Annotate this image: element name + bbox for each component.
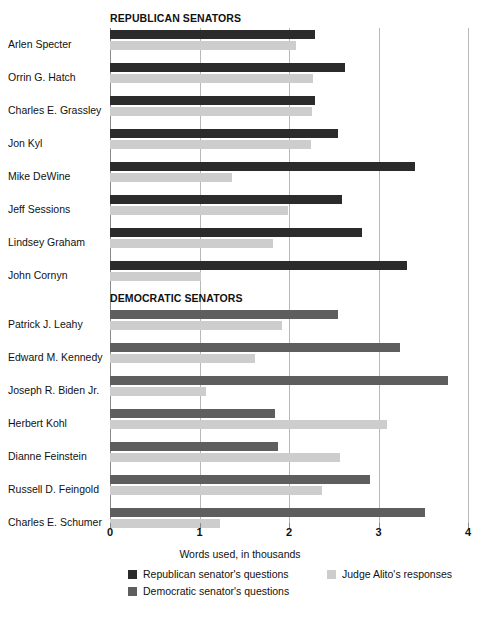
bar-responses — [110, 107, 312, 116]
chart-row: Charles E. Grassley — [0, 94, 480, 127]
row-label: Mike DeWine — [8, 170, 107, 182]
row-bars — [110, 440, 468, 473]
row-bars — [110, 226, 468, 259]
legend-label-republican: Republican senator's questions — [143, 568, 289, 580]
bar-responses — [110, 272, 201, 281]
bar-questions — [110, 442, 278, 451]
row-label: Edward M. Kennedy — [8, 351, 107, 363]
legend: Republican senator's questions Democrati… — [0, 568, 480, 608]
bar-responses — [110, 206, 288, 215]
section-title-democratic: DEMOCRATIC SENATORS — [110, 292, 243, 304]
row-label: Jeff Sessions — [8, 203, 107, 215]
row-bars — [110, 407, 468, 440]
legend-item-republican: Republican senator's questions — [128, 568, 289, 580]
bar-questions — [110, 63, 345, 72]
legend-swatch-icon — [128, 587, 137, 596]
bar-responses — [110, 41, 296, 50]
chart-row: Jeff Sessions — [0, 193, 480, 226]
row-bars — [110, 94, 468, 127]
axis-tick-label: 2 — [286, 526, 292, 538]
bar-questions — [110, 261, 407, 270]
legend-swatch-icon — [128, 570, 137, 579]
row-bars — [110, 374, 468, 407]
bar-questions — [110, 129, 338, 138]
row-bars — [110, 160, 468, 193]
chart-row: Russell D. Feingold — [0, 473, 480, 506]
legend-item-alito: Judge Alito's responses — [327, 568, 452, 580]
chart-row: Patrick J. Leahy — [0, 308, 480, 341]
row-bars — [110, 341, 468, 374]
row-bars — [110, 127, 468, 160]
bar-questions — [110, 310, 338, 319]
row-label: Charles E. Schumer — [8, 516, 107, 528]
bar-questions — [110, 376, 448, 385]
chart-row: Arlen Specter — [0, 28, 480, 61]
legend-label-democratic: Democratic senator's questions — [143, 585, 289, 597]
chart-row: Mike DeWine — [0, 160, 480, 193]
bar-questions — [110, 228, 362, 237]
bar-questions — [110, 195, 342, 204]
x-axis-label: Words used, in thousands — [0, 548, 480, 560]
bar-responses — [110, 387, 206, 396]
row-bars — [110, 61, 468, 94]
row-label: Russell D. Feingold — [8, 483, 107, 495]
x-axis: 01234 — [110, 523, 468, 539]
row-label: Jon Kyl — [8, 137, 107, 149]
bar-responses — [110, 486, 322, 495]
row-label: Orrin G. Hatch — [8, 71, 107, 83]
section-title-republican: REPUBLICAN SENATORS — [110, 12, 241, 24]
row-bars — [110, 308, 468, 341]
row-label: Charles E. Grassley — [8, 104, 107, 116]
row-bars — [110, 259, 468, 292]
row-label: Arlen Specter — [8, 38, 107, 50]
bar-questions — [110, 409, 275, 418]
axis-tick-label: 3 — [375, 526, 381, 538]
row-label: Herbert Kohl — [8, 417, 107, 429]
row-bars — [110, 28, 468, 61]
bar-questions — [110, 508, 425, 517]
legend-item-democratic: Democratic senator's questions — [128, 585, 289, 597]
row-label: Dianne Feinstein — [8, 450, 107, 462]
bar-questions — [110, 475, 370, 484]
chart-row: John Cornyn — [0, 259, 480, 292]
row-label: Joseph R. Biden Jr. — [8, 384, 107, 396]
chart-row: Jon Kyl — [0, 127, 480, 160]
bar-questions — [110, 343, 400, 352]
chart-row: Joseph R. Biden Jr. — [0, 374, 480, 407]
axis-tick-label: 0 — [107, 526, 113, 538]
axis-tick-label: 1 — [196, 526, 202, 538]
row-bars — [110, 193, 468, 226]
row-label: John Cornyn — [8, 269, 107, 281]
axis-tick-label: 4 — [465, 526, 471, 538]
chart-row: Orrin G. Hatch — [0, 61, 480, 94]
row-label: Patrick J. Leahy — [8, 318, 107, 330]
bar-questions — [110, 30, 315, 39]
row-label: Lindsey Graham — [8, 236, 107, 248]
bar-responses — [110, 74, 313, 83]
bar-responses — [110, 420, 387, 429]
row-bars — [110, 473, 468, 506]
bar-questions — [110, 96, 315, 105]
bar-responses — [110, 239, 273, 248]
bar-responses — [110, 140, 311, 149]
bar-responses — [110, 354, 255, 363]
bar-chart: REPUBLICAN SENATORS DEMOCRATIC SENATORS … — [0, 0, 480, 618]
chart-row: Dianne Feinstein — [0, 440, 480, 473]
legend-swatch-icon — [327, 570, 336, 579]
chart-row: Edward M. Kennedy — [0, 341, 480, 374]
bar-questions — [110, 162, 415, 171]
chart-row: Lindsey Graham — [0, 226, 480, 259]
chart-row: Herbert Kohl — [0, 407, 480, 440]
bar-responses — [110, 453, 340, 462]
legend-label-alito: Judge Alito's responses — [342, 568, 452, 580]
bar-responses — [110, 321, 282, 330]
bar-responses — [110, 173, 232, 182]
